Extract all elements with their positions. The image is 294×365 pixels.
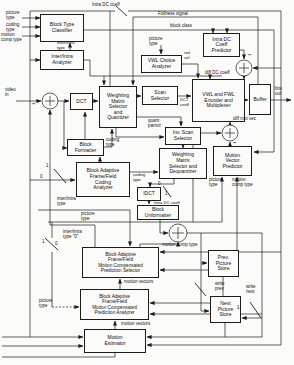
label-intra-dc-coeff-idct: Intra DC coeff [154,201,180,206]
box-scan-selector: Scan Selector [142,86,178,105]
label-motion-vectors-analyzer: motion vectors [121,321,150,326]
label-block-class: block class [170,23,192,28]
minus-sign-video-sum: − [32,101,36,107]
label-picture-type-left: picture type [81,211,95,221]
box-motion-vector-predictor: Motion Vector Predictor [213,146,252,176]
switch-label-bottom-1: 1 [42,239,45,244]
box-dct: DCT [70,93,93,110]
box-inv-scan-selector: Inv. Scan Selector [165,127,201,145]
label-vwl-sel: vwl sel [184,51,190,61]
box-block-unformatter: Block Unformatter [137,205,179,220]
label-bits-out: bits out [275,86,282,96]
box-motion-estimator: Motion Estimator [84,329,146,353]
label-dct-coeff: DCT coeff [180,98,189,108]
label-intra-dc-coeff-top: Intra DC coeff [92,2,120,7]
switch-label-idct-0: 0 [158,181,161,186]
box-vwl-choice-analyzer: VWL Choice Analyzer [141,55,182,73]
switch-label-formatter-0: 0 [40,174,43,179]
box-weighting-matrix-selector-quantizer: Weighting Matrix Selector and Quantizer [99,86,137,128]
minus-sign-mv-sum: − [233,140,237,146]
switch-label-bottom-0: 0 [55,241,58,246]
label-picture-type-vwl: picture type [149,36,163,46]
label-inter-intra-type-classifier: inter/intra type [57,41,74,51]
label-coding-type-input: coding type [6,22,19,32]
sum-reconstruction-adder [169,224,187,242]
label-motion-comp-type-mid: motion comp type [162,242,198,247]
label-motion-comp-type-mvp: motion comp type [232,177,253,187]
label-diff-mot-vec: diff mot vec [233,116,256,121]
label-inter-intra-type-left: inter/intra type [57,196,76,206]
box-prediction-analyzer: Block Adaptive Frame/Field Motion Compen… [80,289,149,320]
box-block-type-classifier: Block Type Classifier [40,14,84,42]
label-motion-vectors-selector: motion vectors [124,279,153,284]
label-write-prev: write prev [215,281,225,291]
label-write-next: write next [246,284,256,294]
sum-diff-dc-coeff [236,60,252,76]
box-intra-dc-coeff-predictor: Intra DC Coeff Predictor [203,33,240,57]
label-diff-dc-coeff: diff DC coeff [205,70,230,75]
box-weighting-matrix-selector-dequantizer: Weighting Matrix Selector and Dequantize… [159,148,207,179]
label-video-in: video in [5,87,16,97]
switch-label-write-next-1: 1 [237,305,240,310]
minus-sign-dc-sum: − [248,52,252,58]
label-coding-type-dequantizer: coding type [133,173,145,183]
switch-label-formatter-1: 1 [46,163,49,168]
label-coding-type-formatter: coding type [106,137,119,147]
label-picture-type-bottom: picture type [39,298,53,308]
box-frame-field-coding-analyzer: Block Adaptive Frame/Field Coding Analyz… [76,162,130,197]
box-prev-picture-store: Prev. Picture Store [208,250,239,277]
label-inter-intra-type-zero: inter/intra type "0" [63,229,82,239]
label-motion-comp-type-input: motion comp type [1,32,22,42]
sum-diff-mot-vec [222,125,238,141]
sum-video-minus-prediction [42,93,58,109]
box-buffer: Buffer [249,84,271,115]
box-inter-intra-analyzer: Inter/Intra Analyzer [40,50,84,70]
box-block-formatter: Block Formatter [67,139,104,156]
box-idct: IDCT [137,187,161,201]
label-picture-type-input: picture type [6,10,20,20]
switch-label-idct-1: 1 [165,191,168,196]
label-quant-parmtr: quant parmtr [148,118,161,128]
label-fullness-signal: Fullness signal [158,11,188,16]
encoder-block-diagram: Block Type Classifier Inter/Intra Analyz… [0,0,294,365]
label-picture-type-mvp: picture type [209,177,223,187]
box-prediction-selector: Block Adaptive Frame/Field Motion Compen… [82,247,159,278]
